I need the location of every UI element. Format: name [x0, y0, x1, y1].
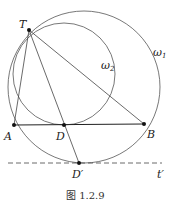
point-B [142, 122, 146, 126]
label-D-prime: D′ [71, 168, 84, 181]
point-T [27, 28, 31, 32]
point-D-prime [77, 161, 81, 165]
label-D: D [55, 130, 65, 143]
label-B: B [146, 128, 155, 141]
segment-AB [14, 124, 144, 125]
label-t-prime: t′ [157, 168, 164, 181]
label-omega2: ω2 [101, 59, 115, 73]
point-A [12, 123, 16, 127]
figure-caption: 图 1.2.9 [66, 190, 105, 200]
label-T: T [19, 18, 28, 31]
point-D [62, 123, 66, 127]
geometry-diagram: T A D B D′ t′ ω1 ω2 图 1.2.9 [0, 0, 169, 200]
label-omega1: ω1 [153, 46, 166, 60]
circle-omega2 [13, 23, 115, 125]
label-A: A [3, 130, 12, 143]
